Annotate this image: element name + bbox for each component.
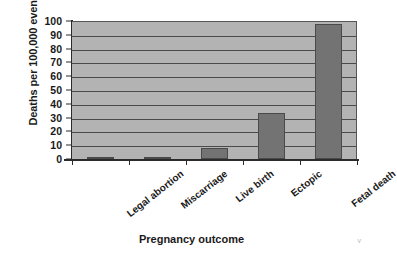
y-axis-tick-label: 30	[50, 112, 62, 123]
x-axis-title: Pregnancy outcome	[0, 233, 383, 245]
y-axis-tick-label: 50	[50, 85, 62, 96]
x-axis-tick-mark	[72, 160, 73, 165]
y-axis-tick-label: 90	[50, 30, 62, 41]
y-axis-tick-label: 80	[50, 43, 62, 54]
y-axis-tick-labels: 1009080706050403020100	[34, 21, 66, 159]
x-axis-tick-mark	[300, 160, 301, 165]
x-axis-category-label: Fetal death	[349, 168, 397, 209]
x-axis-category-label: Ectopic	[288, 168, 323, 199]
y-axis-tick-label: 0	[56, 154, 62, 165]
y-axis-tick-label: 40	[50, 99, 62, 110]
bar	[201, 148, 227, 159]
y-axis-tick-label: 60	[50, 71, 62, 82]
bar	[315, 24, 341, 159]
x-axis-tick-mark	[357, 160, 358, 165]
x-axis-tick-mark	[186, 160, 187, 165]
page-artifact: v	[358, 237, 362, 244]
bar	[144, 157, 170, 159]
x-axis-line	[64, 159, 359, 161]
y-axis-tick-label: 100	[44, 16, 62, 27]
plot-area	[72, 21, 357, 159]
x-axis-category-label: Legal abortion	[124, 168, 185, 219]
bar	[87, 157, 113, 159]
x-axis-category-label: Live birth	[233, 168, 275, 204]
x-axis-tick-mark	[243, 160, 244, 165]
x-axis-tick-mark	[129, 160, 130, 165]
bar	[258, 113, 284, 159]
x-axis-category-label: Miscarriage	[178, 168, 229, 211]
y-axis-tick-label: 20	[50, 126, 62, 137]
bars	[72, 22, 356, 159]
y-axis-tick-label: 10	[50, 140, 62, 151]
y-axis-tick-label: 70	[50, 57, 62, 68]
